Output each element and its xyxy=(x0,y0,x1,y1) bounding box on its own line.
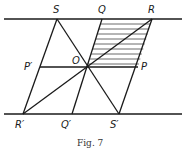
label-rprime: R′ xyxy=(15,119,25,130)
label-p: P xyxy=(141,61,148,72)
hatching xyxy=(88,24,151,64)
label-q: Q xyxy=(98,4,106,15)
label-s: S xyxy=(53,4,60,15)
geometry-figure: S Q R P′ O P R′ Q′ S′ Fig. 7 xyxy=(0,0,185,151)
label-sprime: S′ xyxy=(110,119,119,130)
label-qprime: Q′ xyxy=(61,119,72,130)
label-o: O xyxy=(72,55,80,66)
label-r: R xyxy=(148,4,155,15)
figure-caption: Fig. 7 xyxy=(77,138,104,148)
label-pprime: P′ xyxy=(24,61,33,72)
